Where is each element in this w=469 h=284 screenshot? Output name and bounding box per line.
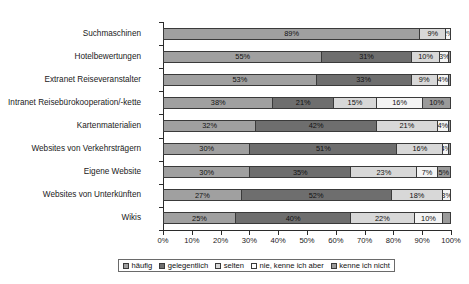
bar-segment: 5% xyxy=(437,166,451,178)
stacked-bar-chart: Suchmaschinen89%9%2%Hotelbewertungen55%3… xyxy=(0,0,469,284)
bar-segment: 35% xyxy=(249,166,350,178)
stacked-bar: 27%52%18%3% xyxy=(163,189,451,201)
chart-row: Hotelbewertungen55%31%10%3% xyxy=(163,51,451,63)
bar-segment: 30% xyxy=(163,143,249,155)
category-label: Hotelbewertungen xyxy=(0,51,141,63)
bar-segment: 55% xyxy=(163,51,321,63)
category-label: Websites von Unterkünften xyxy=(0,189,141,201)
legend-swatch-icon xyxy=(251,263,257,269)
x-tick xyxy=(278,231,279,235)
chart-row: Wikis25%40%22%10% xyxy=(163,212,451,224)
x-tick xyxy=(365,231,366,235)
plot-area: Suchmaschinen89%9%2%Hotelbewertungen55%3… xyxy=(163,22,451,230)
stacked-bar: 53%33%9%4% xyxy=(163,74,451,86)
bar-segment: 21% xyxy=(376,120,436,132)
bar-segment: 4% xyxy=(437,74,449,86)
legend-label: häufig xyxy=(132,261,153,270)
bar-segment xyxy=(448,143,451,155)
x-tick xyxy=(192,231,193,235)
x-tick xyxy=(163,231,164,235)
legend-label: gelegentlich xyxy=(168,261,209,270)
bar-segment: 42% xyxy=(255,120,376,132)
bar-segment: 23% xyxy=(350,166,416,178)
bar-segment: 25% xyxy=(163,212,235,224)
legend-label: kenne ich nicht xyxy=(339,261,390,270)
category-label: Websites von Verkehrsträgern xyxy=(0,143,141,155)
x-tick xyxy=(307,231,308,235)
bar-segment: 4% xyxy=(437,120,449,132)
stacked-bar: 38%21%15%16%10% xyxy=(163,97,451,109)
category-label: Eigene Website xyxy=(0,166,141,178)
bar-segment xyxy=(442,212,451,224)
bar-segment: 16% xyxy=(376,97,422,109)
stacked-bar: 30%51%16%4% xyxy=(163,143,451,155)
bar-segment: 51% xyxy=(249,143,396,155)
stacked-bar: 32%42%21%4% xyxy=(163,120,451,132)
legend-item[interactable]: häufig xyxy=(123,261,152,270)
legend-item[interactable]: selten xyxy=(215,261,244,270)
bar-segment xyxy=(448,74,451,86)
chart-legend: häufiggelegentlichseltennie, kenne ich a… xyxy=(118,259,395,272)
stacked-bar: 25%40%22%10% xyxy=(163,212,451,224)
bar-segment: 33% xyxy=(316,74,411,86)
bar-segment: 21% xyxy=(272,97,332,109)
legend-label: nie, kenne ich aber xyxy=(260,261,324,270)
x-tick xyxy=(422,231,423,235)
bar-segment xyxy=(448,120,451,132)
bar-segment: 10% xyxy=(422,97,451,109)
legend-swatch-icon xyxy=(215,263,221,269)
chart-row: Extranet Reiseveranstalter53%33%9%4% xyxy=(163,74,451,86)
legend-item[interactable]: gelegentlich xyxy=(159,261,208,270)
bar-segment: 7% xyxy=(416,166,436,178)
x-tick xyxy=(393,231,394,235)
stacked-bar: 55%31%10%3% xyxy=(163,51,451,63)
chart-row: Websites von Verkehrsträgern30%51%16%4% xyxy=(163,143,451,155)
legend-item[interactable]: kenne ich nicht xyxy=(331,261,390,270)
x-tick xyxy=(221,231,222,235)
bar-segment: 10% xyxy=(411,51,440,63)
bar-segment: 30% xyxy=(163,166,249,178)
bar-segment: 3% xyxy=(442,189,451,201)
bar-segment: 15% xyxy=(333,97,376,109)
legend-swatch-icon xyxy=(331,263,337,269)
legend-swatch-icon xyxy=(159,263,165,269)
bar-segment: 22% xyxy=(350,212,413,224)
category-label: Suchmaschinen xyxy=(0,28,141,40)
bar-segment: 32% xyxy=(163,120,255,132)
category-label: Extranet Reiseveranstalter xyxy=(0,74,141,86)
stacked-bar: 30%35%23%7%5% xyxy=(163,166,451,178)
bar-segment: 27% xyxy=(163,189,241,201)
bar-segment: 9% xyxy=(419,28,445,40)
chart-row: Suchmaschinen89%9%2% xyxy=(163,28,451,40)
chart-row: Kartenmaterialien32%42%21%4% xyxy=(163,120,451,132)
bar-segment: 31% xyxy=(321,51,410,63)
chart-row: Intranet Reisebürokooperation/-kette38%2… xyxy=(163,97,451,109)
bar-segment: 52% xyxy=(241,189,391,201)
bar-segment xyxy=(448,51,451,63)
legend-label: selten xyxy=(224,261,244,270)
chart-row: Websites von Unterkünften27%52%18%3% xyxy=(163,189,451,201)
bar-segment: 38% xyxy=(163,97,272,109)
bar-segment: 9% xyxy=(411,74,437,86)
x-tick xyxy=(451,231,452,235)
bar-segment: 10% xyxy=(414,212,443,224)
category-label: Wikis xyxy=(0,212,141,224)
bar-segment: 53% xyxy=(163,74,316,86)
bar-segment: 18% xyxy=(391,189,443,201)
legend-item[interactable]: nie, kenne ich aber xyxy=(251,261,324,270)
chart-row: Eigene Website30%35%23%7%5% xyxy=(163,166,451,178)
bar-segment: 40% xyxy=(235,212,350,224)
bar-segment: 2% xyxy=(445,28,451,40)
bar-segment: 3% xyxy=(439,51,448,63)
category-label: Intranet Reisebürokooperation/-kette xyxy=(0,97,141,109)
x-tick xyxy=(249,231,250,235)
bar-segment: 16% xyxy=(396,143,442,155)
x-tick xyxy=(336,231,337,235)
category-label: Kartenmaterialien xyxy=(0,120,141,132)
stacked-bar: 89%9%2% xyxy=(163,28,451,40)
bar-segment: 89% xyxy=(163,28,419,40)
legend-swatch-icon xyxy=(123,263,129,269)
x-tick-label: 100% xyxy=(431,236,469,245)
